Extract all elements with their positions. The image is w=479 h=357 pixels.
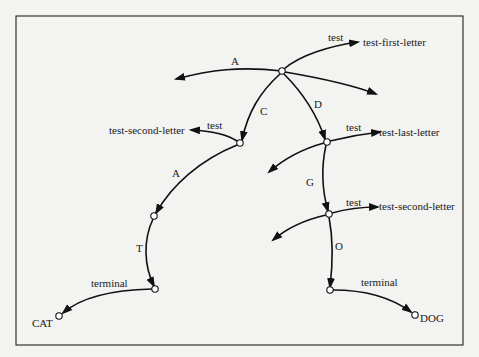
diagram-frame: [16, 16, 463, 345]
label-root-left-a: A: [231, 55, 239, 67]
edge-c-a: [156, 145, 237, 213]
node-ca: [151, 213, 157, 219]
label-dg-test-target: test-second-letter: [379, 200, 455, 212]
edge-cat-terminal: [63, 289, 152, 313]
node-d: [324, 139, 330, 145]
label-d-test: test: [346, 121, 361, 133]
node-root: [279, 68, 285, 74]
label-leaf-cat: CAT: [32, 317, 53, 329]
label-root-d: D: [314, 98, 322, 110]
label-ca-t: T: [136, 242, 143, 254]
node-dog: [327, 287, 333, 293]
edge-ca-t: [146, 219, 154, 286]
leaf-dog-node: [412, 312, 418, 318]
edge-dg-left: [273, 215, 326, 240]
label-cat-terminal: terminal: [91, 277, 128, 289]
edge-d-left: [269, 143, 324, 172]
diagram-canvas: A C D A G T O test test-first-letter tes…: [0, 0, 479, 357]
node-dg: [326, 211, 332, 217]
label-dg-test: test: [346, 196, 361, 208]
edge-c-test: [191, 130, 237, 141]
label-d-test-target: test-last-letter: [379, 126, 440, 138]
label-d-g: G: [306, 176, 314, 188]
edge-root-test: [284, 42, 358, 69]
label-root-test-target: test-first-letter: [363, 36, 426, 48]
label-c-a: A: [172, 167, 180, 179]
node-c: [237, 140, 243, 146]
label-c-test: test: [207, 119, 222, 131]
edge-d-test: [330, 132, 380, 141]
node-cat: [152, 286, 158, 292]
edge-d-g: [323, 145, 328, 211]
edge-dog-terminal: [333, 290, 411, 312]
leaf-cat-node: [56, 313, 62, 319]
edge-root-left-a: [176, 69, 282, 79]
label-root-test: test: [328, 31, 343, 43]
label-dg-o: O: [335, 240, 343, 252]
label-c-test-target: test-second-letter: [109, 124, 185, 136]
edge-dg-o: [329, 217, 332, 287]
label-dog-terminal: terminal: [361, 276, 398, 288]
label-leaf-dog: DOG: [420, 312, 444, 324]
label-root-c: C: [260, 105, 267, 117]
